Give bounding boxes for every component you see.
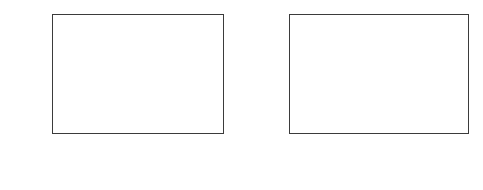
panel-normal-probability-plot [0,0,240,190]
figure-residual-diagnostics [0,0,483,190]
panel-residuals-vs-fits [240,0,483,190]
plot-area-a [52,14,224,134]
plot-area-b [289,14,469,134]
